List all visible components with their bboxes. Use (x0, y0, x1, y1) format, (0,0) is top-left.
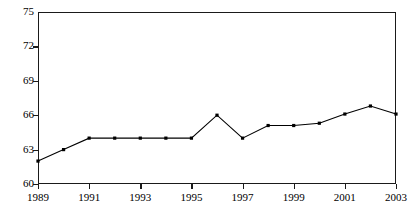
x-axis-tick-label: 1997 (220, 191, 266, 203)
x-axis-tick-mark (243, 184, 244, 189)
data-series-layer (38, 12, 396, 184)
data-point-marker (318, 122, 321, 125)
data-point-marker (113, 137, 116, 140)
data-point-marker (215, 114, 218, 117)
x-axis-tick-label: 1999 (271, 191, 317, 203)
line-chart: 606366697275 198919911993199519971999200… (0, 0, 409, 219)
x-axis-tick-label: 1993 (117, 191, 163, 203)
data-point-marker (267, 124, 270, 127)
x-axis-tick-mark (294, 184, 295, 189)
x-axis-tick-label: 2003 (373, 191, 409, 203)
data-point-marker (292, 124, 295, 127)
x-axis-tick-label: 1991 (66, 191, 112, 203)
data-point-marker (190, 137, 193, 140)
data-point-marker (139, 137, 142, 140)
x-axis-tick-mark (396, 184, 397, 189)
series-1-markers (36, 104, 397, 162)
data-point-marker (343, 112, 346, 115)
x-axis-tick-label: 1995 (168, 191, 214, 203)
data-point-marker (62, 148, 65, 151)
y-axis-tick-marks (0, 12, 43, 184)
data-point-marker (369, 104, 372, 107)
x-axis-tick-label: 2001 (322, 191, 368, 203)
x-axis-tick-labels: 19891991199319951997199920012003 (38, 191, 396, 211)
x-axis-tick-label: 1989 (15, 191, 61, 203)
x-axis-tick-mark (89, 184, 90, 189)
x-axis-tick-marks (38, 184, 396, 190)
x-axis-tick-mark (140, 184, 141, 189)
series-1-svg (38, 12, 396, 184)
x-axis-tick-mark (345, 184, 346, 189)
data-point-marker (394, 112, 397, 115)
data-point-marker (241, 137, 244, 140)
data-point-marker (88, 137, 91, 140)
data-point-marker (36, 159, 39, 162)
x-axis-tick-mark (38, 184, 39, 189)
x-axis-tick-mark (191, 184, 192, 189)
data-point-marker (164, 137, 167, 140)
